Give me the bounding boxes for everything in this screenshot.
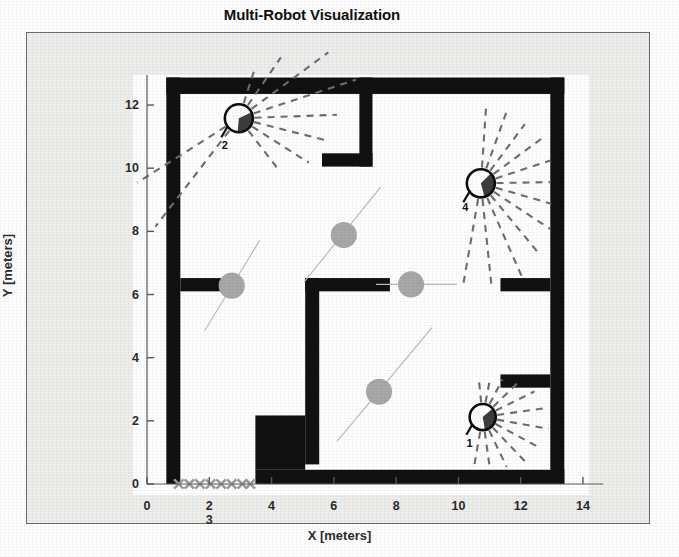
x-tick-label-12: 12	[514, 499, 528, 513]
x-tick-label-0: 0	[144, 499, 151, 513]
x-tick-label-4: 4	[268, 499, 275, 513]
x-tick-label-2: 2	[206, 499, 213, 513]
y-tick-label-10: 10	[113, 161, 139, 175]
x-axis-label: X [meters]	[0, 528, 679, 543]
y-tick-label-0: 0	[113, 477, 139, 491]
robot-id-label-2: 2	[222, 139, 228, 151]
y-tick-label-2: 2	[113, 414, 139, 428]
x-tick-label-6: 6	[330, 499, 337, 513]
y-tick-label-8: 8	[113, 224, 139, 238]
robot-id-label-1: 1	[467, 437, 473, 449]
y-tick-label-6: 6	[113, 288, 139, 302]
visualization-root: Multi-Robot Visualization 02468101214024…	[0, 0, 679, 557]
x-tick-label-10: 10	[451, 499, 465, 513]
x-tick-extra-label: 3	[206, 513, 213, 527]
y-tick-label-4: 4	[113, 351, 139, 365]
x-tick-label-8: 8	[393, 499, 400, 513]
x-tick-label-14: 14	[576, 499, 590, 513]
figure-title: Multi-Robot Visualization	[0, 6, 624, 23]
y-axis-label: Y [meters]	[0, 234, 15, 297]
robot-id-label-4: 4	[462, 201, 468, 213]
y-tick-label-12: 12	[113, 98, 139, 112]
